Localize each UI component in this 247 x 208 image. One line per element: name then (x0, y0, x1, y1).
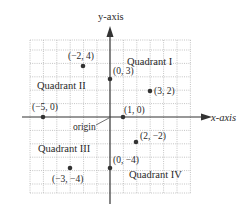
axes (22, 26, 212, 204)
quadrant-i-label: Quadrant I (127, 56, 173, 67)
point-neg2-4 (81, 64, 86, 69)
point-0-3 (108, 77, 113, 82)
y-axis-label: y-axis (98, 11, 124, 22)
point-label-1-0: (1, 0) (124, 105, 145, 116)
point-3-2 (148, 89, 153, 94)
point-label-0-neg4: (0, −4) (113, 155, 139, 166)
point-label-neg2-4: (−2, 4) (68, 51, 94, 62)
point-label-3-2: (3, 2) (154, 86, 175, 97)
point-neg5-0 (41, 115, 46, 120)
point-label-0-3: (0, 3) (113, 66, 134, 77)
origin-leader-line (96, 118, 109, 125)
point-neg3-neg4 (68, 166, 73, 171)
point-label-2-neg2: (2, −2) (140, 131, 166, 142)
point-0-neg4 (108, 166, 113, 171)
point-1-0 (121, 115, 126, 120)
point-label-neg5-0: (−5, 0) (32, 102, 58, 113)
quadrant-iii-label: Quadrant III (38, 143, 91, 154)
origin-label: origin (73, 122, 96, 132)
quadrant-iv-label: Quadrant IV (129, 169, 182, 180)
point-2-neg2 (134, 140, 139, 145)
point-label-neg3-neg4: (−3, −4) (52, 174, 83, 185)
coordinate-plane-figure: y-axis x-axis origin Quadrant I Quadrant… (0, 0, 247, 208)
y-axis-arrow-icon (107, 26, 114, 37)
quadrant-ii-label: Quadrant II (37, 80, 86, 91)
x-axis-label: x-axis (210, 112, 236, 123)
